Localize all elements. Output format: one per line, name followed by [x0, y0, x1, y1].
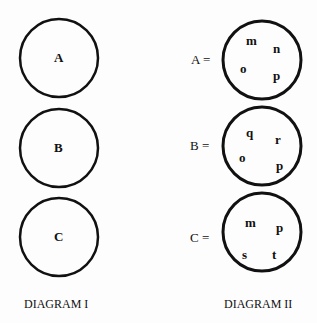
- diagram2-title: DIAGRAM II: [224, 297, 292, 312]
- set-a-element: p: [273, 68, 280, 84]
- diagram2-circle-c: [223, 193, 301, 271]
- diagram2-circle-b: [223, 107, 301, 185]
- set-b-element: o: [239, 150, 246, 166]
- diagram2-circle-a: [223, 21, 301, 99]
- circle-label-c: C: [54, 229, 63, 245]
- set-label-a: A =: [191, 52, 210, 68]
- set-b-element: p: [276, 158, 283, 174]
- diagram1-title: DIAGRAM I: [24, 297, 88, 312]
- circles-layer: [0, 0, 317, 323]
- set-c-element: t: [272, 247, 276, 263]
- set-label-c: C =: [190, 230, 209, 246]
- set-c-element: s: [242, 247, 247, 263]
- circle-label-b: B: [54, 140, 63, 156]
- circle-label-a: A: [54, 50, 63, 66]
- set-b-element: r: [275, 132, 281, 148]
- set-b-element: q: [246, 125, 253, 141]
- set-a-element: m: [246, 33, 257, 49]
- set-c-element: m: [245, 215, 256, 231]
- set-c-element: p: [276, 220, 283, 236]
- set-a-element: n: [273, 41, 280, 57]
- set-label-b: B =: [190, 138, 209, 154]
- set-a-element: o: [240, 61, 247, 77]
